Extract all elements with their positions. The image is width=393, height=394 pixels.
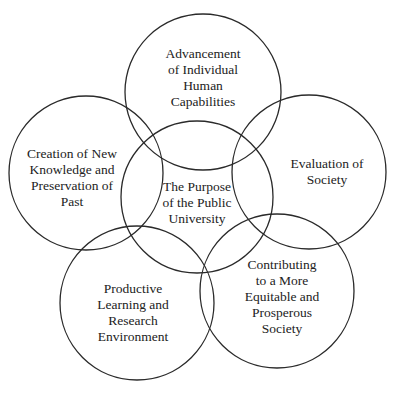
label-line: Preservation of [27,178,117,194]
label-line: Evaluation of [290,156,363,172]
label-line: Equitable and [245,289,320,305]
label-line: Society [290,172,363,188]
label-evaluation-of-society: Evaluation of Society [290,156,363,188]
label-line: Environment [97,329,169,345]
label-line: Learning and [97,297,169,313]
label-line: Advancement [166,46,241,62]
label-advancement-of-individual-human-capabilities: Advancement of Individual Human Capabili… [166,46,241,110]
label-contributing-to-equitable-society: Contributing to a More Equitable and Pro… [245,257,320,337]
label-line: Creation of New [27,146,117,162]
label-line: Research [97,313,169,329]
label-line: Prosperous [245,305,320,321]
label-line: The Purpose [163,179,232,195]
label-line: Contributing [245,257,320,273]
label-creation-of-new-knowledge: Creation of New Knowledge and Preservati… [27,146,117,210]
label-line: Productive [97,281,169,297]
label-line: Society [245,321,320,337]
label-line: Human [166,78,241,94]
label-line: of the Public [163,195,232,211]
label-line: of Individual [166,62,241,78]
label-productive-learning-research-environment: Productive Learning and Research Environ… [97,281,169,345]
label-line: to a More [245,273,320,289]
label-purpose-of-public-university: The Purpose of the Public University [163,179,232,227]
label-line: Past [27,194,117,210]
label-line: University [163,211,232,227]
label-line: Capabilities [166,94,241,110]
label-line: Knowledge and [27,162,117,178]
